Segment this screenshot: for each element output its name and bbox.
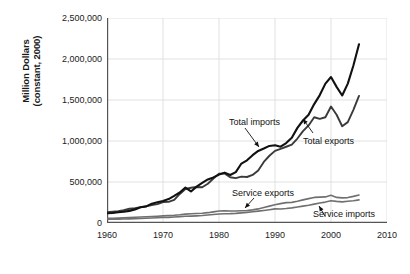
y-tick-label: 0 bbox=[40, 219, 102, 228]
y-tick-label: 1,500,000 bbox=[40, 96, 102, 105]
leader-total-exports-arrowhead bbox=[303, 119, 308, 124]
x-tick-label: 2010 bbox=[367, 231, 407, 240]
y-axis-label-line1: Million Dollars bbox=[20, 39, 31, 102]
leader-service-exports bbox=[245, 198, 254, 208]
x-tick-label: 1960 bbox=[87, 231, 127, 240]
x-tick-label: 2000 bbox=[311, 231, 351, 240]
annotation-service-exports: Service exports bbox=[232, 188, 294, 198]
y-tick-label: 1,000,000 bbox=[40, 137, 102, 146]
chart-figure: Million Dollars (constant, 2000) 0500,00… bbox=[0, 0, 410, 274]
x-axis-tick-labels: 196019701980199020002010 bbox=[0, 231, 410, 245]
x-tick-label: 1980 bbox=[199, 231, 239, 240]
leader-total-imports-arrowhead bbox=[254, 142, 259, 147]
annotation-total-exports: Total exports bbox=[303, 136, 354, 146]
y-tick-label: 2,500,000 bbox=[40, 14, 102, 23]
leader-total-imports bbox=[245, 128, 259, 147]
x-tick-label: 1970 bbox=[143, 231, 183, 240]
annotation-total-imports: Total imports bbox=[229, 117, 280, 127]
annotation-service-imports: Service imports bbox=[313, 209, 375, 219]
y-tick-label: 2,000,000 bbox=[40, 55, 102, 64]
x-tick-label: 1990 bbox=[255, 231, 295, 240]
y-tick-label: 500,000 bbox=[40, 178, 102, 187]
